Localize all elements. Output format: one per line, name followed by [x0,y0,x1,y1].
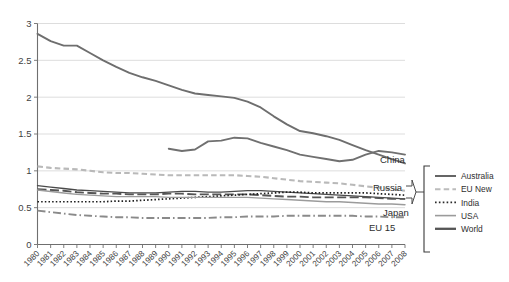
chart-canvas: 00.511.522.53198019811982198319841985198… [0,0,509,282]
legend-label-eu-new: EU New [461,184,493,194]
legend-label-australia: Australia [461,171,494,181]
y-tick-label: 0 [26,239,31,250]
legend-label-india: India [461,198,480,208]
annotation-russia: Russia [373,182,403,193]
annotation-eu-15: EU 15 [369,222,395,233]
y-tick-label: 3 [26,18,31,29]
series-line-eu-new [38,166,406,190]
legend-bracket [424,166,430,252]
y-tick-label: 2 [26,92,31,103]
annotation-japan: Japan [383,207,409,218]
line-chart: 00.511.522.53198019811982198319841985198… [0,0,509,282]
annotation-china: China [380,154,406,165]
y-tick-label: 1.5 [18,128,31,139]
y-tick-label: 2.5 [18,55,31,66]
series-line-japan [38,211,406,218]
y-tick-label: 1 [26,165,31,176]
legend-label-world: World [461,224,483,234]
x-tick-label: 2008 [390,249,410,269]
legend-label-usa: USA [461,211,479,221]
annotation-brace [406,180,416,204]
y-tick-label: 0.5 [18,202,31,213]
series-line-china [38,34,406,164]
series-line-russia [169,138,405,162]
